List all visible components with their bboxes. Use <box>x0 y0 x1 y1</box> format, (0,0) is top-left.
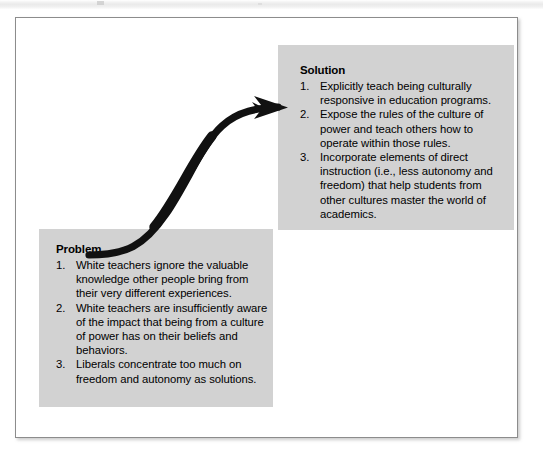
list-item-number: 2. <box>56 301 70 315</box>
figure-page: Solution 1. Explicitly teach being cultu… <box>0 0 543 458</box>
list-item: 2. White teachers are insufficiently awa… <box>56 301 268 358</box>
problem-box-title: Problem <box>56 243 101 256</box>
list-item-number: 3. <box>56 357 70 371</box>
scan-speck <box>97 1 104 5</box>
solution-box: Solution 1. Explicitly teach being cultu… <box>278 45 514 230</box>
list-item: 1. Explicitly teach being culturally res… <box>300 79 506 107</box>
solution-box-list: 1. Explicitly teach being culturally res… <box>300 79 506 221</box>
scan-speck-secondary <box>258 3 262 5</box>
list-item-text: Explicitly teach being culturally respon… <box>320 79 506 107</box>
list-item-text: White teachers ignore the valuable knowl… <box>76 258 268 301</box>
list-item: 1. White teachers ignore the valuable kn… <box>56 258 268 301</box>
list-item: 3. Liberals concentrate too much on free… <box>56 357 268 385</box>
list-item-text: Expose the rules of the culture of power… <box>320 107 506 150</box>
list-item-number: 3. <box>300 150 314 164</box>
figure-frame: Solution 1. Explicitly teach being cultu… <box>15 17 518 438</box>
list-item-number: 1. <box>300 79 314 93</box>
list-item-text: Liberals concentrate too much on freedom… <box>76 357 268 385</box>
list-item-text: White teachers are insufficiently aware … <box>76 301 268 358</box>
problem-box: Problem 1. White teachers ignore the val… <box>39 229 273 407</box>
solution-box-title: Solution <box>300 64 345 77</box>
scan-artifact-band <box>0 0 543 9</box>
list-item-text: Incorporate elements of direct instructi… <box>320 150 506 221</box>
list-item: 3. Incorporate elements of direct instru… <box>300 150 506 221</box>
problem-box-list: 1. White teachers ignore the valuable kn… <box>56 258 268 386</box>
list-item-number: 1. <box>56 258 70 272</box>
list-item: 2. Expose the rules of the culture of po… <box>300 107 506 150</box>
list-item-number: 2. <box>300 107 314 121</box>
